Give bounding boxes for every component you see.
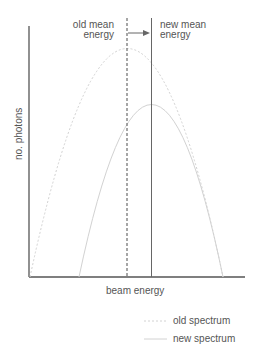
new-mean-label-line2: energy (160, 30, 191, 40)
spectrum-diagram (0, 0, 259, 358)
legend-old-label: old spectrum (173, 316, 230, 326)
y-axis-label: no. photons (13, 108, 24, 160)
arrow-head-icon (143, 30, 150, 36)
old-mean-label-line2: energy (72, 30, 114, 40)
old-spectrum-curve (30, 49, 223, 278)
legend-new-label: new spectrum (173, 334, 235, 344)
x-axis-label: beam energy (106, 286, 164, 296)
